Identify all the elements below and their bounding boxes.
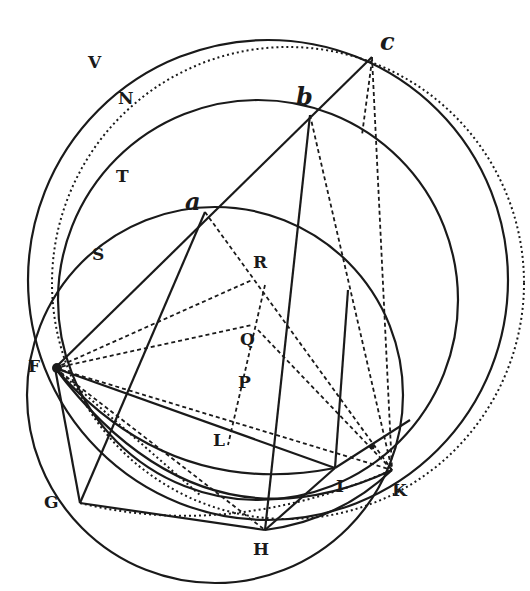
label-b: b: [296, 82, 313, 111]
label-I: I: [336, 476, 344, 496]
inner-circle: [27, 207, 403, 583]
label-P: P: [238, 372, 251, 392]
line-G-H: [80, 503, 265, 530]
label-a: a: [185, 187, 201, 216]
dash-F-R: [55, 280, 252, 368]
label-K: K: [392, 480, 408, 500]
label-R: R: [253, 252, 268, 272]
line-F-G: [55, 368, 80, 503]
outer-circle-solid: [28, 40, 508, 520]
label-F: F: [28, 356, 40, 376]
label-Q: Q: [240, 329, 255, 349]
label-S: S: [92, 244, 104, 264]
label-H: H: [253, 539, 269, 559]
label-V: V: [87, 52, 102, 72]
dash-c-mid: [362, 60, 372, 135]
line-I-up: [335, 290, 348, 468]
point-F-dot: [52, 363, 62, 373]
line-I-K-arc: [335, 420, 410, 468]
label-G: G: [44, 492, 59, 512]
line-b-H: [265, 115, 310, 530]
dash-c-K: [372, 57, 392, 470]
label-c: c: [380, 27, 395, 56]
label-T: T: [116, 166, 129, 186]
dash-R-L: [228, 285, 265, 445]
geometric-diagram: V N T S F G H I K L P Q R a b c: [0, 0, 530, 591]
label-N: N: [118, 88, 134, 108]
line-F-c: [55, 57, 372, 368]
point-small-dot: [370, 445, 375, 450]
label-L: L: [213, 430, 225, 450]
dash-b-K: [310, 115, 392, 470]
